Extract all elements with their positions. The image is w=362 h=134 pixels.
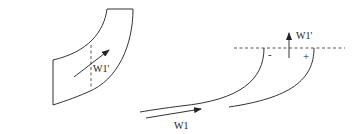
pressure-side-sign: + — [303, 50, 309, 62]
inlet-velocity-arrow — [146, 109, 201, 118]
right-blade-figure: - + W1' W1 — [140, 30, 345, 131]
channel-inner-wall — [53, 9, 107, 60]
suction-side-sign: - — [268, 48, 272, 60]
blade-suction-profile — [140, 48, 264, 112]
diagram-canvas: W1' - + W1' W1 — [0, 0, 362, 134]
left-channel-figure: W1' — [53, 9, 133, 105]
inlet-velocity-label: W1 — [174, 120, 188, 131]
outlet-velocity-label: W1' — [296, 30, 312, 41]
left-velocity-label: W1' — [93, 63, 109, 74]
